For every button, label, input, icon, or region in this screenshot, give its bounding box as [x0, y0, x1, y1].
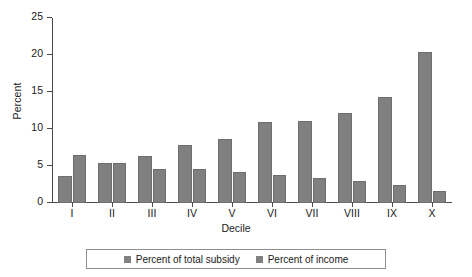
bar: [73, 155, 87, 203]
bar: [353, 181, 367, 203]
x-tick-label: I: [71, 207, 74, 219]
y-tick-label: 25: [31, 10, 43, 22]
legend-swatch-icon: [256, 256, 263, 263]
bar: [393, 185, 407, 203]
bar: [298, 121, 312, 203]
y-tick: 5: [47, 165, 52, 166]
y-tick-label: 15: [31, 84, 43, 96]
x-tick-label: X: [428, 207, 435, 219]
bar: [378, 97, 392, 203]
bar: [313, 178, 327, 203]
bar: [178, 145, 192, 203]
legend-item-income: Percent of income: [256, 254, 349, 265]
x-axis-title: Decile: [0, 222, 472, 234]
y-tick: 15: [47, 91, 52, 92]
bar: [273, 175, 287, 203]
chart-legend: Percent of total subsidy Percent of inco…: [86, 249, 386, 269]
y-tick: 10: [47, 128, 52, 129]
y-tick-label: 20: [31, 47, 43, 59]
bar: [233, 172, 247, 203]
y-tick: 25: [47, 17, 52, 18]
plot-area: 0510152025 IIIIIIIVVVIVIIVIIIIXX: [52, 18, 452, 203]
x-tick-label: VII: [306, 207, 319, 219]
y-tick-label: 5: [37, 158, 43, 170]
legend-item-total-subsidy: Percent of total subsidy: [124, 254, 240, 265]
bar: [153, 169, 167, 203]
bar: [218, 139, 232, 203]
bar: [113, 163, 127, 203]
y-axis-title: Percent: [11, 66, 23, 136]
bar: [418, 52, 432, 203]
x-tick-label: VI: [267, 207, 277, 219]
bar: [98, 163, 112, 203]
y-tick: 0: [47, 202, 52, 203]
x-tick-label: V: [228, 207, 235, 219]
bar-chart-figure: Percent 0510152025 IIIIIIIVVVIVIIVIIIIXX…: [0, 0, 472, 277]
legend-label: Percent of income: [268, 254, 349, 265]
bar: [138, 156, 152, 203]
y-axis-line: [52, 18, 53, 203]
legend-label: Percent of total subsidy: [136, 254, 240, 265]
legend-swatch-icon: [124, 256, 131, 263]
y-tick-label: 10: [31, 121, 43, 133]
y-tick-label: 0: [37, 195, 43, 207]
bar: [58, 176, 72, 203]
x-tick-label: II: [109, 207, 115, 219]
bar: [433, 191, 447, 203]
bar: [338, 113, 352, 203]
bar: [193, 169, 207, 203]
x-tick-label: VIII: [344, 207, 360, 219]
x-tick-label: III: [148, 207, 157, 219]
x-tick-label: IX: [387, 207, 397, 219]
y-tick: 20: [47, 54, 52, 55]
bar: [258, 122, 272, 203]
x-tick-label: IV: [187, 207, 197, 219]
